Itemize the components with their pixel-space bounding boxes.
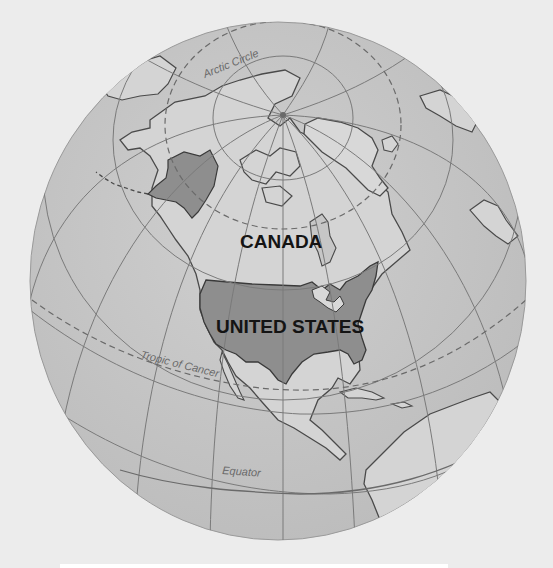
united-states-label: UNITED STATES xyxy=(216,316,364,337)
globe-map: Arctic Circle Tropic of Cancer Equator C… xyxy=(0,0,553,568)
north-pole-marker xyxy=(280,112,286,118)
canada-label: CANADA xyxy=(240,231,323,252)
bottom-strip xyxy=(60,564,448,568)
